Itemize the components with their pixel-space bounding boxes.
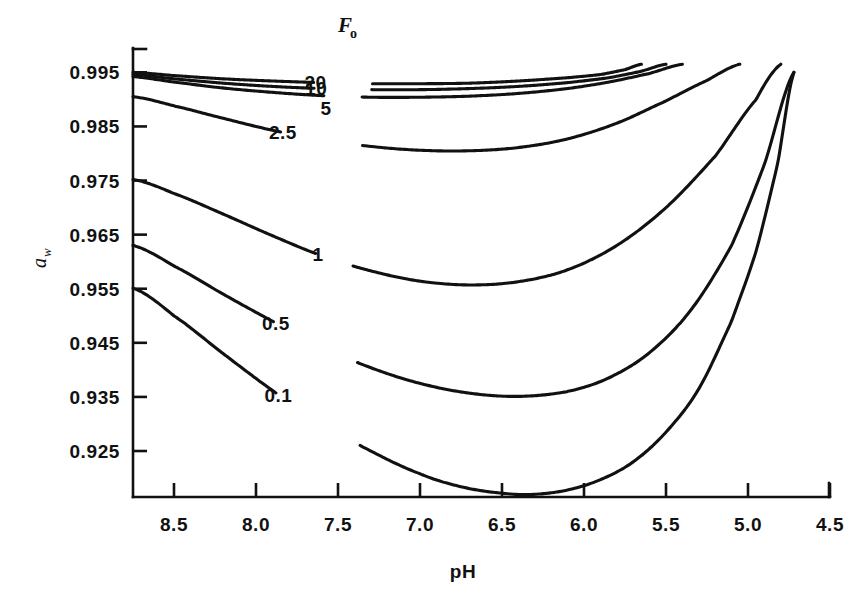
y-tick-label: 0.925 xyxy=(69,441,120,462)
x-tick-label: 8.0 xyxy=(242,514,270,535)
aw-vs-ph-line-chart: 0.9950.9850.9750.9650.9550.9450.9350.925… xyxy=(0,0,868,605)
y-tick-label: 0.995 xyxy=(69,62,120,83)
chart-figure: 0.9950.9850.9750.9650.9550.9450.9350.925… xyxy=(0,0,868,605)
x-tick-label: 6.5 xyxy=(488,514,516,535)
x-tick-label: 6.0 xyxy=(570,514,598,535)
legend-title-sub: o xyxy=(350,26,357,41)
x-tick-label: 5.0 xyxy=(734,514,762,535)
y-tick-label: 0.935 xyxy=(69,387,120,408)
x-tick-label: 8.5 xyxy=(160,514,188,535)
curve-label-f0-0-1: 0.1 xyxy=(264,385,292,406)
curve-label-f0-0-5: 0.5 xyxy=(262,313,290,334)
curve-label-f0-2-5: 2.5 xyxy=(269,122,297,143)
x-tick-label: 5.5 xyxy=(652,514,680,535)
y-axis-title-main: a xyxy=(28,258,50,268)
y-tick-label: 0.955 xyxy=(69,279,120,300)
curve-label-f0-5: 5 xyxy=(320,98,331,119)
x-tick-label: 7.0 xyxy=(406,514,434,535)
y-tick-label: 0.985 xyxy=(69,116,120,137)
x-tick-label: 7.5 xyxy=(324,514,352,535)
y-tick-label: 0.975 xyxy=(69,171,120,192)
y-tick-label: 0.945 xyxy=(69,333,120,354)
y-tick-label: 0.965 xyxy=(69,225,120,246)
curve-label-f0-1: 1 xyxy=(313,244,324,265)
curve-label-f0-10: 10 xyxy=(305,78,327,99)
x-axis-title: pH xyxy=(450,561,477,582)
x-tick-label: 4.5 xyxy=(816,514,844,535)
x-axis-tick-labels: 8.58.07.57.06.56.05.55.04.5 xyxy=(160,514,844,535)
y-axis-title-sub: w xyxy=(39,248,54,257)
